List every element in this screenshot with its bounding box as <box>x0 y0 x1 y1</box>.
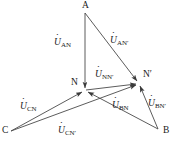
phasor-diagram: A B C N N′ UAN UAN′ UNN′ UBN UBN′ UCN UC… <box>0 0 183 154</box>
phasor-vector-group <box>11 13 158 131</box>
phasor-symbol: U <box>54 37 61 47</box>
phasor-diagram-canvas <box>0 0 183 154</box>
phasor-label-u-bn-prime: UBN′ <box>148 99 166 110</box>
phasor-label-u-an-prime: UAN′ <box>110 36 129 47</box>
phasor-label-u-nn-prime: UNN′ <box>95 70 114 81</box>
phasor-subscript: AN <box>61 41 71 49</box>
phasor-symbol: U <box>148 98 155 108</box>
phasor-symbol: U <box>112 100 119 110</box>
vertex-label-a: A <box>82 1 89 11</box>
phasor-symbol: U <box>20 101 27 111</box>
phasor-subscript: CN′ <box>65 129 76 137</box>
phasor-label-u-cn-prime: UCN′ <box>58 126 76 137</box>
vertex-label-b: B <box>163 126 169 136</box>
phasor-symbol: U <box>110 35 117 45</box>
phasor-symbol: U <box>58 125 65 135</box>
phasor-symbol: U <box>95 69 102 79</box>
phasor-subscript: CN <box>27 105 37 113</box>
phasor-label-u-bn: UBN <box>112 101 129 112</box>
vertex-label-n: N <box>71 78 78 88</box>
vertex-label-c: C <box>2 126 8 136</box>
phasor-line-u-nn-prime <box>86 84 136 90</box>
phasor-subscript: BN <box>119 104 129 112</box>
phasor-subscript: NN′ <box>102 73 114 81</box>
phasor-subscript: BN′ <box>155 102 166 110</box>
phasor-subscript: AN′ <box>117 39 129 47</box>
phasor-label-u-cn: UCN <box>20 102 37 113</box>
phasor-label-u-an: UAN <box>54 38 71 49</box>
vertex-label-n-prime: N′ <box>143 70 152 80</box>
